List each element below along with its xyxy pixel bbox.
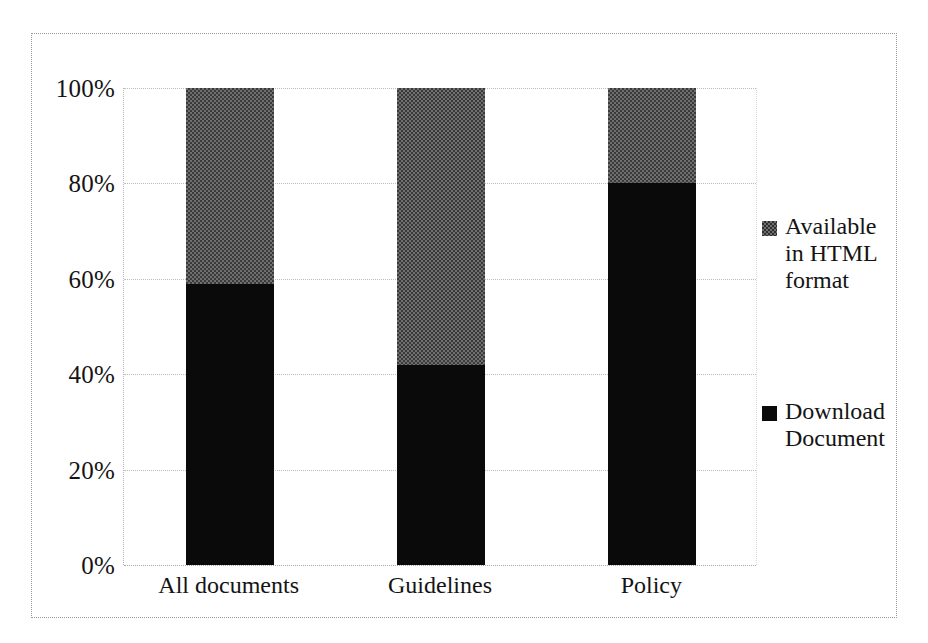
chart-legend: Available in HTML formatDownload Documen… xyxy=(762,88,894,565)
chart-figure: 100%80%60%40%20%0% All documentsGuidelin… xyxy=(0,0,928,643)
x-axis-tick-label: All documents xyxy=(158,572,299,598)
y-axis-tick-label: 100% xyxy=(29,76,115,101)
x-axis-tick-label: Guidelines xyxy=(388,572,492,598)
legend-swatch-black-icon xyxy=(762,406,777,421)
y-axis-tick-label: 80% xyxy=(29,171,115,196)
bar-segment[interactable] xyxy=(608,88,696,183)
legend-label: Available in HTML format xyxy=(785,213,894,294)
y-axis-tick-label: 60% xyxy=(29,266,115,291)
y-axis-tick-label: 40% xyxy=(29,362,115,387)
bar-segment[interactable] xyxy=(186,284,274,565)
legend-swatch-gray-icon xyxy=(762,221,777,236)
y-axis: 100%80%60%40%20%0% xyxy=(20,88,115,565)
x-axis: All documentsGuidelinesPolicy xyxy=(123,572,757,612)
bar-segment[interactable] xyxy=(397,365,485,565)
gridline-0% xyxy=(124,565,756,566)
bar-segment[interactable] xyxy=(186,88,274,284)
legend-entry[interactable]: Available in HTML format xyxy=(762,213,894,294)
y-axis-tick-label: 0% xyxy=(29,553,115,578)
bar-group[interactable] xyxy=(608,88,696,565)
bar-segment[interactable] xyxy=(608,183,696,565)
legend-entry[interactable]: Download Document xyxy=(762,398,894,452)
bar-group[interactable] xyxy=(397,88,485,565)
bar-group[interactable] xyxy=(186,88,274,565)
plot-area xyxy=(123,88,757,565)
y-axis-tick-label: 20% xyxy=(29,457,115,482)
legend-label: Download Document xyxy=(785,398,894,452)
x-axis-tick-label: Policy xyxy=(621,572,682,598)
bar-segment[interactable] xyxy=(397,88,485,365)
